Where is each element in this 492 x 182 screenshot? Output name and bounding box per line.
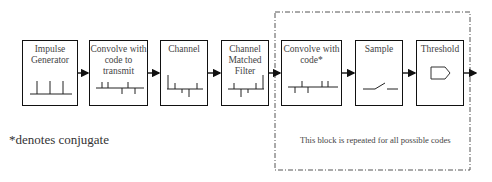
conjugate-code-sequence-icon	[282, 41, 343, 107]
block-convolve-code-conjugate: Convolve with code*	[281, 40, 342, 106]
comparator-icon	[417, 41, 465, 107]
block-channel: Channel	[160, 40, 208, 106]
switch-icon	[356, 41, 404, 107]
repeated-group-note: This block is repeated for all possible …	[300, 135, 451, 145]
block-channel-matched-filter: Channel Matched Filter	[221, 40, 269, 106]
block-impulse-generator: Impulse Generator	[22, 40, 78, 106]
footnote-conjugate: *denotes conjugate	[9, 132, 109, 148]
impulse-train-icon	[23, 41, 79, 107]
diagram-canvas: Impulse Generator Convolve with code to …	[0, 0, 492, 182]
block-threshold: Threshold	[416, 40, 464, 106]
matched-filter-response-icon	[222, 41, 270, 107]
block-sample: Sample	[355, 40, 403, 106]
channel-response-icon	[161, 41, 209, 107]
code-sequence-icon	[90, 41, 149, 107]
block-convolve-transmit: Convolve with code to transmit	[89, 40, 148, 106]
